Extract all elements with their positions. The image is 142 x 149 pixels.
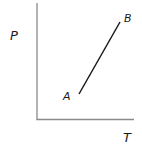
pt-diagram: P T A B [0,0,142,149]
process-line-a-to-b [79,22,120,94]
x-axis-label: T [123,130,132,145]
point-b-label: B [124,12,132,25]
point-a-label: A [62,90,71,103]
y-axis-label: P [10,28,18,43]
